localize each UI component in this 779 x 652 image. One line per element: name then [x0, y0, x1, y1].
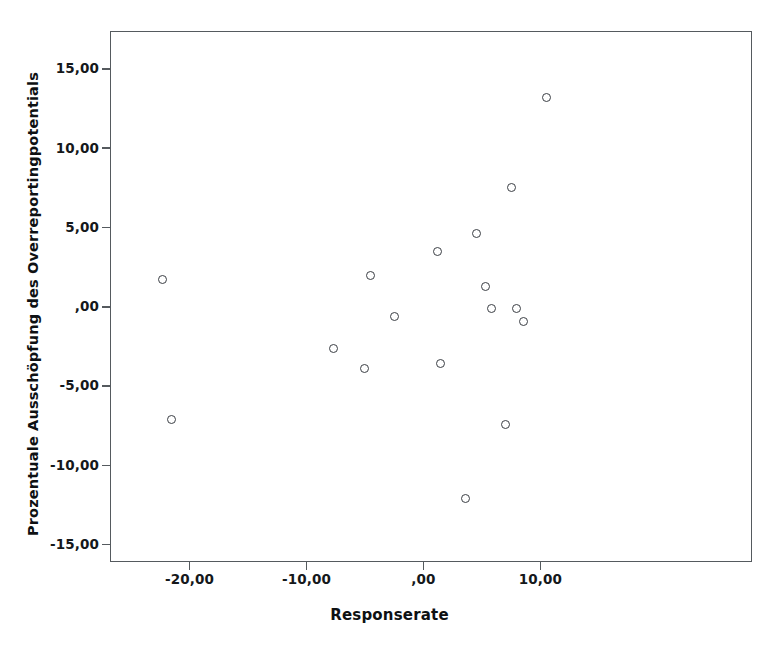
x-axis: Responserate -20,00-10,00,0010,00	[0, 562, 779, 652]
data-point	[472, 229, 481, 238]
x-axis-tick-label: ,00	[411, 573, 435, 587]
y-axis-tick-mark	[102, 68, 110, 70]
data-point	[329, 344, 338, 353]
y-axis-tick-label: ,00	[75, 300, 102, 314]
x-axis-tick-mark	[423, 562, 425, 570]
y-axis-tick-mark	[102, 544, 110, 546]
y-axis-tick-label: -15,00	[50, 537, 102, 551]
data-point	[519, 317, 528, 326]
y-axis-tick-mark	[102, 306, 110, 308]
data-point	[366, 271, 375, 280]
data-point	[501, 420, 510, 429]
data-point	[167, 415, 176, 424]
data-point	[461, 494, 470, 503]
data-point	[512, 304, 521, 313]
y-axis-tick-label: 5,00	[65, 220, 102, 234]
x-axis-tick-mark	[189, 562, 191, 570]
y-axis-tick-label: -10,00	[50, 458, 102, 472]
x-axis-tick-mark	[540, 562, 542, 570]
y-axis-tick-mark	[102, 227, 110, 229]
data-point	[436, 359, 445, 368]
y-axis-tick-label: -5,00	[60, 379, 102, 393]
data-point	[542, 93, 551, 102]
y-axis-tick-mark	[102, 385, 110, 387]
data-point	[390, 312, 399, 321]
data-point	[158, 275, 167, 284]
x-axis-title: Responserate	[0, 606, 779, 624]
scatter-plot-figure: Prozentuale Ausschöpfung des Overreporti…	[0, 0, 779, 652]
data-point	[507, 183, 516, 192]
y-axis: Prozentuale Ausschöpfung des Overreporti…	[0, 0, 110, 652]
y-axis-title: Prozentuale Ausschöpfung des Overreporti…	[25, 44, 41, 564]
plot-area	[110, 31, 752, 562]
data-point	[433, 247, 442, 256]
data-point	[360, 364, 369, 373]
y-axis-tick-label: 15,00	[56, 62, 102, 76]
y-axis-tick-label: 10,00	[56, 141, 102, 155]
x-axis-tick-label: 10,00	[519, 573, 562, 587]
data-point	[481, 282, 490, 291]
x-axis-tick-mark	[306, 562, 308, 570]
y-axis-tick-mark	[102, 147, 110, 149]
x-axis-tick-label: -10,00	[282, 573, 331, 587]
x-axis-tick-label: -20,00	[165, 573, 214, 587]
data-point	[487, 304, 496, 313]
y-axis-tick-mark	[102, 465, 110, 467]
